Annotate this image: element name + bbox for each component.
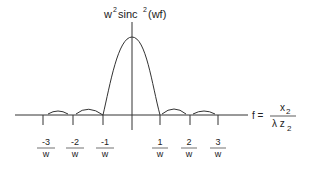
sinc-squared-diagram: w 2 sinc 2 (wf) f = x 2 λ z 2 -3 w -2 w … — [0, 0, 311, 170]
tick-label-neg2: -2 w — [66, 137, 84, 159]
y-label-w: w — [103, 8, 112, 20]
y-label-arg: (wf) — [148, 8, 166, 20]
y-label-sup2: 2 — [143, 6, 147, 13]
tick-labels: -3 w -2 w -1 w 1 w 2 w 3 w — [37, 137, 226, 159]
x-axis-label: f = x 2 λ z 2 — [252, 102, 296, 133]
tick-den: w — [214, 149, 222, 159]
y-axis-label: w 2 sinc 2 (wf) — [103, 6, 166, 20]
tick-num: 2 — [186, 137, 191, 147]
x-label-num: x — [280, 102, 285, 113]
tick-label-pos1: 1 w — [152, 137, 168, 159]
tick-num: 3 — [215, 137, 220, 147]
tick-den: w — [185, 149, 193, 159]
x-label-num-sub: 2 — [286, 107, 291, 116]
tick-num: -1 — [101, 137, 109, 147]
tick-den: w — [101, 149, 109, 159]
x-label-den: λ z — [272, 118, 285, 129]
tick-label-neg1: -1 w — [96, 137, 114, 159]
x-ticks — [43, 115, 218, 125]
tick-label-neg3: -3 w — [37, 137, 55, 159]
tick-label-pos2: 2 w — [181, 137, 197, 159]
tick-den: w — [71, 149, 79, 159]
x-label-den-sub: 2 — [287, 124, 292, 133]
tick-num: -3 — [42, 137, 50, 147]
tick-den: w — [156, 149, 164, 159]
tick-label-pos3: 3 w — [210, 137, 226, 159]
y-label-sinc: sinc — [118, 8, 138, 20]
x-label-f: f = — [252, 110, 264, 121]
y-label-sup1: 2 — [113, 6, 117, 13]
tick-den: w — [42, 149, 50, 159]
tick-num: 1 — [157, 137, 162, 147]
tick-num: -2 — [71, 137, 79, 147]
